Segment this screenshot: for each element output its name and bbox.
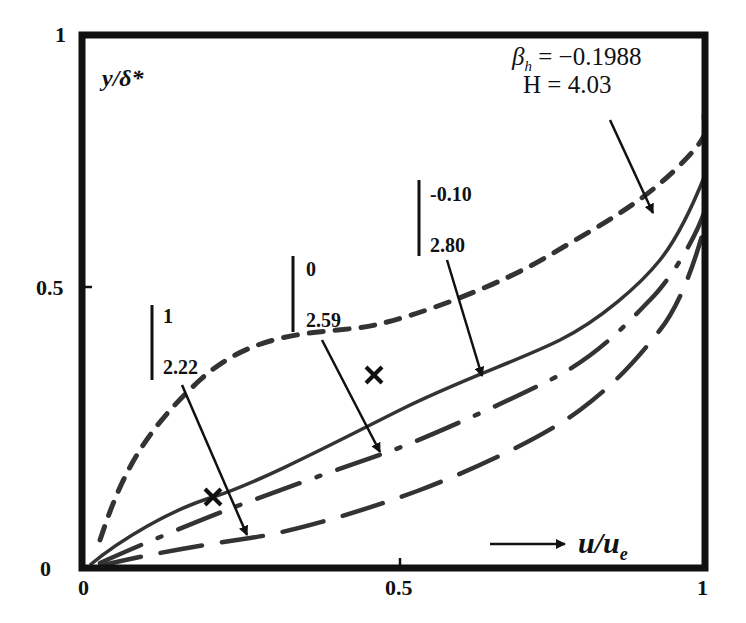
header-H: H = 4.03 (523, 72, 611, 97)
label-H-2.22: 2.22 (163, 357, 198, 377)
x-tick-label-0: 0 (78, 577, 89, 599)
x-axis-title: u/ue (578, 528, 628, 563)
header-beta: βh = −0.1988 (512, 44, 641, 74)
curve-beta-1 (100, 225, 705, 566)
beta-symbol: β (512, 43, 524, 70)
x-axis-title-main: u/u (578, 526, 620, 559)
x-tick-label-0.5: 0.5 (385, 577, 413, 599)
y-axis-title: y/δ* (102, 66, 144, 90)
arrow-header (610, 120, 653, 213)
y-tick-label-1: 1 (55, 24, 66, 46)
x-axis-title-sub: e (620, 544, 628, 564)
chart-canvas (0, 0, 746, 623)
label-beta-1: 1 (163, 306, 173, 326)
beta-value: = −0.1988 (538, 43, 641, 70)
label-H-2.80: 2.80 (430, 235, 465, 255)
x-marker-2 (366, 367, 382, 383)
x-tick-label-1: 1 (697, 577, 708, 599)
label-beta-neg0.10: -0.10 (430, 184, 472, 204)
y-tick-label-0: 0 (40, 558, 51, 580)
arrow-label-neg0.10 (447, 260, 482, 376)
label-beta-0: 0 (306, 259, 316, 279)
y-tick-label-0.5: 0.5 (36, 277, 64, 299)
curve-beta-neg0.1988 (100, 110, 706, 540)
label-H-2.59: 2.59 (306, 310, 341, 330)
plot-frame (82, 35, 705, 568)
